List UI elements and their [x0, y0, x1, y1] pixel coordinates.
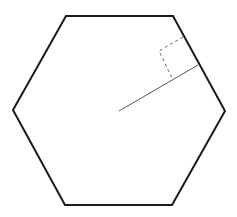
hexagon-diagram — [0, 0, 237, 217]
background — [0, 0, 237, 217]
